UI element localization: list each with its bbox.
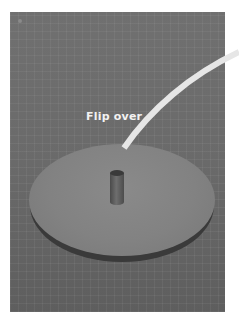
photo: Flip over	[10, 12, 225, 312]
cylinder	[110, 173, 124, 205]
mat-dot	[18, 19, 22, 23]
cylinder-top	[110, 170, 124, 176]
instruction-label: Flip over	[86, 110, 142, 123]
